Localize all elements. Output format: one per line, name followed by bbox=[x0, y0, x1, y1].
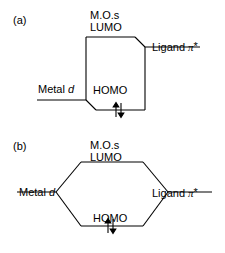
a-upper-right-corner bbox=[135, 37, 145, 47]
panel-b-label: (b) bbox=[13, 140, 26, 152]
panel-a-metal-orbital: d bbox=[68, 83, 74, 95]
panel-a-homo-label: HOMO bbox=[93, 84, 127, 96]
a-electron-down-arrow-head bbox=[118, 113, 124, 118]
panel-a-ligand-pi-label: Ligand π* bbox=[152, 40, 198, 53]
panel-a-ligand-text: Ligand bbox=[152, 41, 188, 53]
b-lower-left-diagonal bbox=[56, 192, 81, 226]
panel-b-mos-label: M.O.s bbox=[90, 139, 119, 151]
panel-b-ligand-text: Ligand bbox=[152, 187, 188, 199]
panel-a-metal-d-label: Metal d bbox=[38, 83, 74, 95]
diagram-panel-b: (b) M.O.s LUMO HOMO Metal d Ligand π* bbox=[0, 126, 225, 253]
panel-a-label: (a) bbox=[13, 14, 26, 26]
panel-b-ligand-pi-label: Ligand π* bbox=[152, 186, 198, 199]
panel-b-ligand-star: * bbox=[194, 186, 198, 198]
panel-b-homo-label: HOMO bbox=[93, 212, 127, 224]
a-electron-up-arrow-head bbox=[113, 103, 119, 108]
panel-b-metal-orbital: d bbox=[49, 186, 55, 198]
panel-a-metal-text: Metal bbox=[38, 83, 68, 95]
panel-a-lumo-label: LUMO bbox=[90, 21, 122, 33]
b-electron-down-arrow-head bbox=[110, 229, 116, 234]
b-upper-left-diagonal bbox=[56, 162, 81, 192]
panel-b-metal-text: Metal bbox=[19, 186, 49, 198]
a-lower-left-corner bbox=[86, 100, 96, 110]
panel-a-ligand-star: * bbox=[194, 40, 198, 52]
diagram-panel-a: (a) M.O.s LUMO HOMO Metal d Ligand π* bbox=[0, 0, 225, 126]
panel-b-lumo-label: LUMO bbox=[90, 151, 122, 163]
panel-a-mos-label: M.O.s bbox=[90, 9, 119, 21]
panel-b-metal-d-label: Metal d bbox=[19, 186, 55, 198]
